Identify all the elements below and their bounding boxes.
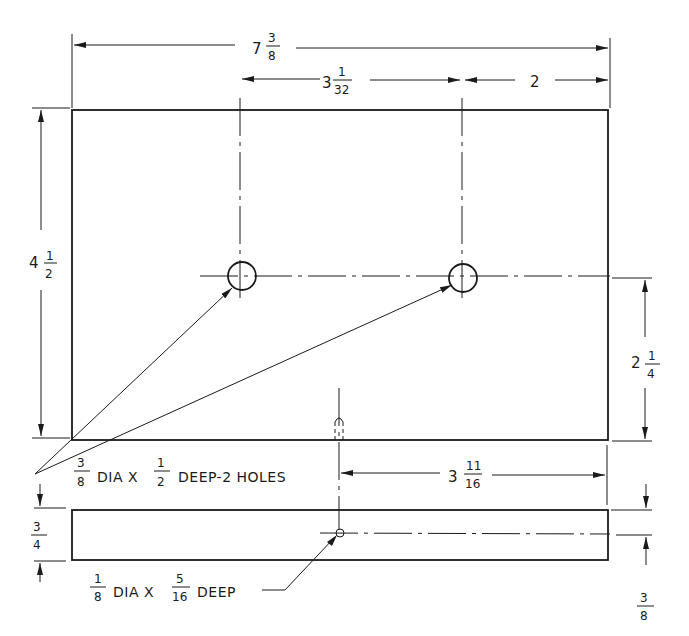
svg-text:1: 1 bbox=[648, 349, 656, 363]
svg-text:16: 16 bbox=[465, 477, 480, 491]
svg-text:DIA X: DIA X bbox=[113, 584, 154, 600]
svg-text:11: 11 bbox=[466, 459, 481, 473]
svg-text:2: 2 bbox=[157, 475, 165, 489]
leader-small-hole bbox=[262, 535, 337, 590]
svg-text:1: 1 bbox=[157, 456, 165, 470]
small-hole-centerline bbox=[320, 533, 610, 534]
dim-hole-spacing: 3 1 32 bbox=[242, 65, 460, 97]
leader-large-holes bbox=[35, 285, 452, 474]
svg-text:8: 8 bbox=[640, 609, 648, 623]
dim-small-hole-from-right: 3 11 16 bbox=[341, 445, 607, 505]
svg-text:2: 2 bbox=[45, 267, 53, 281]
front-view-outline bbox=[72, 510, 608, 560]
svg-text:DEEP: DEEP bbox=[197, 584, 236, 600]
svg-text:DEEP-2 HOLES: DEEP-2 HOLES bbox=[178, 469, 286, 485]
technical-drawing: 7 3 8 3 1 32 2 4 1 2 2 1 4 bbox=[0, 0, 689, 636]
svg-text:1: 1 bbox=[338, 65, 346, 79]
svg-text:4: 4 bbox=[647, 367, 655, 381]
svg-text:8: 8 bbox=[77, 475, 85, 489]
note-large-holes: 3 8 DIA X 1 2 DEEP-2 HOLES bbox=[74, 456, 286, 489]
svg-text:8: 8 bbox=[94, 590, 102, 604]
svg-text:2: 2 bbox=[530, 73, 540, 91]
dim-hole-row-height: 2 1 4 bbox=[612, 278, 660, 441]
svg-text:1: 1 bbox=[94, 572, 102, 586]
svg-text:4: 4 bbox=[29, 254, 39, 272]
svg-text:8: 8 bbox=[268, 49, 276, 63]
small-hole-hidden-lines bbox=[335, 388, 343, 530]
svg-text:32: 32 bbox=[334, 83, 349, 97]
svg-text:3: 3 bbox=[77, 456, 85, 470]
svg-text:3: 3 bbox=[33, 520, 41, 534]
dim-hole-to-edge: 2 bbox=[465, 73, 608, 91]
dim-overall-width: 4 1 2 bbox=[29, 108, 70, 438]
svg-text:4: 4 bbox=[33, 538, 41, 552]
hole-2 bbox=[449, 264, 477, 292]
svg-text:3: 3 bbox=[268, 31, 276, 45]
top-view-outline bbox=[72, 110, 608, 440]
dim-small-hole-height: 3 8 bbox=[611, 484, 654, 623]
note-small-hole: 1 8 DIA X 5 16 DEEP bbox=[90, 572, 236, 604]
svg-text:3: 3 bbox=[322, 74, 332, 92]
dim-thickness: 3 4 bbox=[31, 484, 66, 582]
svg-text:5: 5 bbox=[176, 572, 184, 586]
svg-text:2: 2 bbox=[631, 354, 641, 372]
svg-text:DIA X: DIA X bbox=[97, 469, 138, 485]
svg-text:7: 7 bbox=[252, 40, 262, 58]
svg-text:16: 16 bbox=[172, 590, 187, 604]
svg-text:3: 3 bbox=[448, 468, 458, 486]
svg-text:1: 1 bbox=[46, 249, 54, 263]
svg-text:3: 3 bbox=[640, 591, 648, 605]
